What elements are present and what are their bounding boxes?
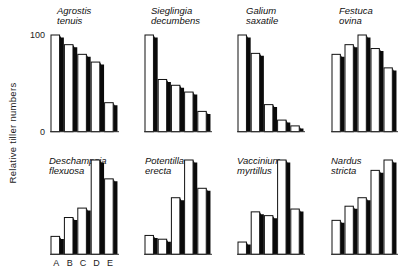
bar-side bbox=[206, 188, 210, 254]
y-axis-label: Relative tiller numbers bbox=[7, 83, 18, 184]
bar-C bbox=[264, 216, 272, 255]
bar-side bbox=[299, 126, 303, 132]
panel-title-line: stricta bbox=[331, 165, 356, 176]
bar-side bbox=[353, 206, 357, 254]
bar-B bbox=[251, 212, 259, 254]
bar-side bbox=[113, 179, 117, 254]
bar-side bbox=[286, 160, 290, 254]
bar-side bbox=[379, 170, 383, 254]
bar-C bbox=[171, 85, 179, 131]
bar-side bbox=[260, 212, 264, 254]
bar-C bbox=[358, 35, 366, 132]
bar-side bbox=[86, 54, 90, 131]
bar-E bbox=[198, 111, 206, 131]
bar-A bbox=[145, 35, 153, 132]
bar-B bbox=[158, 239, 166, 254]
bar-D bbox=[185, 160, 193, 254]
bar-side bbox=[353, 45, 357, 132]
bar-E bbox=[291, 209, 299, 254]
panel-nardus-stricta: Nardusstricta bbox=[331, 155, 398, 254]
panel-agrostis-tenuis: Agrostistenuis bbox=[50, 5, 119, 132]
panel-sieglingia-decumbens: Sieglingiadecumbens bbox=[144, 5, 212, 132]
bar-side bbox=[286, 120, 290, 132]
bar-C bbox=[171, 198, 179, 255]
bar-E bbox=[198, 188, 206, 254]
bar-E bbox=[105, 179, 114, 254]
bar-side bbox=[167, 239, 171, 254]
bar-A bbox=[332, 54, 340, 131]
bar-side bbox=[73, 218, 77, 255]
panel-vaccinium-myrtillus: Vacciniummyrtillus bbox=[237, 155, 305, 254]
panel-festuca-ovina: Festucaovina bbox=[331, 5, 398, 132]
bar-D bbox=[278, 120, 286, 132]
bar-side bbox=[246, 242, 250, 254]
panel-potentilla-erecta: Potentillaerecta bbox=[144, 155, 212, 254]
bar-B bbox=[251, 53, 259, 131]
bar-D bbox=[91, 160, 100, 254]
x-tick-D: D bbox=[93, 258, 100, 268]
bar-side bbox=[86, 208, 90, 254]
bar-side bbox=[100, 62, 104, 132]
bar-side bbox=[366, 198, 370, 255]
bar-A bbox=[51, 35, 60, 132]
bar-side bbox=[167, 79, 171, 131]
panel-deschampsia-flexuosa: Deschampsiaflexuosa bbox=[49, 155, 119, 254]
panel-title-line: erecta bbox=[145, 165, 171, 176]
panel-title-line: decumbens bbox=[151, 15, 200, 26]
bar-side bbox=[392, 160, 396, 254]
bar-A bbox=[332, 220, 340, 254]
x-tick-C: C bbox=[80, 258, 87, 268]
bar-side bbox=[100, 160, 104, 254]
bar-side bbox=[60, 35, 64, 132]
bar-C bbox=[78, 208, 87, 254]
x-tick-A: A bbox=[53, 258, 59, 268]
panel-title-line: flexuosa bbox=[49, 165, 84, 176]
bar-C bbox=[78, 54, 87, 131]
bar-side bbox=[273, 105, 277, 132]
bar-E bbox=[105, 103, 114, 132]
x-axis-category-labels: ABCDE bbox=[53, 258, 113, 268]
bar-B bbox=[64, 45, 73, 132]
bar-A bbox=[238, 35, 246, 132]
bar-side bbox=[379, 49, 383, 132]
bar-E bbox=[384, 160, 392, 254]
bar-C bbox=[358, 198, 366, 255]
bar-side bbox=[260, 53, 264, 131]
bar-D bbox=[91, 62, 100, 132]
y-tick-100: 100 bbox=[30, 30, 45, 40]
bar-A bbox=[145, 235, 153, 254]
bar-side bbox=[180, 198, 184, 255]
bar-B bbox=[158, 79, 166, 131]
panel-title-line: tenuis bbox=[57, 15, 83, 26]
panel-title-line: saxatile bbox=[246, 15, 278, 26]
bar-B bbox=[345, 206, 353, 254]
y-tick-0: 0 bbox=[40, 127, 45, 137]
bar-D bbox=[371, 170, 379, 254]
bar-side bbox=[340, 54, 344, 131]
bar-B bbox=[64, 218, 73, 255]
bar-side bbox=[180, 85, 184, 131]
bar-side bbox=[60, 236, 64, 254]
bar-side bbox=[153, 35, 157, 132]
bar-side bbox=[153, 235, 157, 254]
bar-D bbox=[185, 92, 193, 132]
bar-side bbox=[366, 35, 370, 132]
bar-A bbox=[238, 242, 246, 254]
tiller-numbers-chart: Relative tiller numbers 100 0 Agrostiste… bbox=[0, 0, 419, 271]
bar-side bbox=[299, 209, 303, 254]
bar-side bbox=[193, 92, 197, 132]
bar-E bbox=[291, 126, 299, 132]
bar-D bbox=[278, 160, 286, 254]
bar-side bbox=[113, 103, 117, 132]
x-tick-E: E bbox=[107, 258, 113, 268]
bar-side bbox=[340, 220, 344, 254]
bar-side bbox=[206, 111, 210, 131]
bar-side bbox=[246, 35, 250, 132]
bar-side bbox=[392, 68, 396, 132]
bar-side bbox=[193, 160, 197, 254]
panel-title-line: myrtillus bbox=[237, 165, 272, 176]
bar-side bbox=[73, 45, 77, 132]
bar-A bbox=[51, 236, 60, 254]
bar-D bbox=[371, 49, 379, 132]
x-tick-B: B bbox=[67, 258, 73, 268]
